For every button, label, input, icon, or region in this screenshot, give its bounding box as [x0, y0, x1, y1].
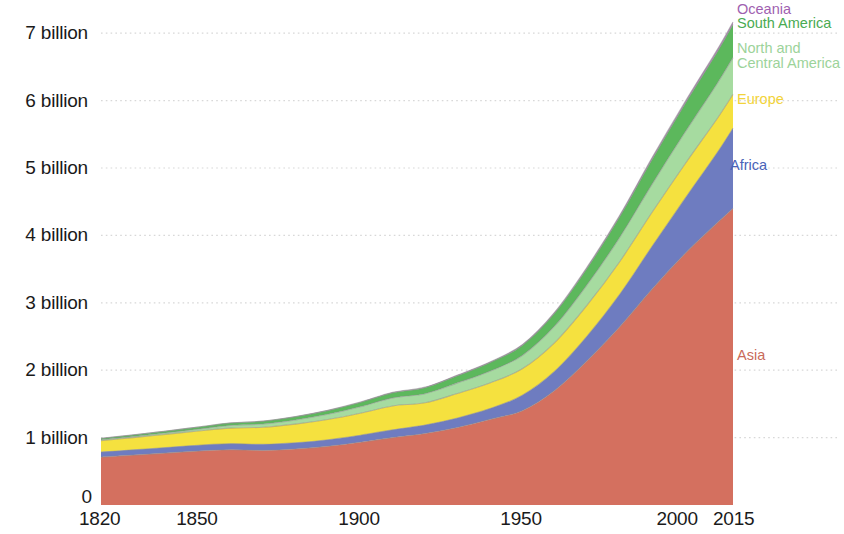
x-axis-tick-1950: 1950 — [500, 508, 541, 530]
stacked-area-series — [101, 22, 733, 505]
x-axis-tick-1850: 1850 — [176, 508, 217, 530]
y-axis-tick-6-billion: 6 billion — [0, 90, 88, 112]
y-axis-tick-3-billion: 3 billion — [0, 292, 88, 314]
x-axis-tick-2015: 2015 — [713, 508, 754, 530]
y-axis-tick-4-billion: 4 billion — [0, 224, 88, 246]
x-axis-tick-1820: 1820 — [79, 508, 120, 530]
chart-plot-area — [0, 0, 844, 534]
y-axis-tick-7-billion: 7 billion — [0, 22, 88, 44]
series-label-south-america: South America — [737, 16, 831, 32]
series-label-europe: Europe — [737, 92, 784, 108]
series-label-africa: Africa — [730, 158, 767, 174]
series-label-north-central-america-line2: Central America — [737, 56, 840, 72]
x-axis-tick-1900: 1900 — [338, 508, 379, 530]
y-axis-tick-5-billion: 5 billion — [0, 157, 88, 179]
y-axis-tick-1-billion: 1 billion — [0, 427, 88, 449]
population-area-chart: 7 billion 6 billion 5 billion 4 billion … — [0, 0, 844, 534]
series-label-asia: Asia — [737, 348, 765, 364]
y-axis-tick-2-billion: 2 billion — [0, 359, 88, 381]
x-axis-tick-2000: 2000 — [656, 508, 697, 530]
y-axis-tick-zero: 0 — [0, 486, 92, 508]
